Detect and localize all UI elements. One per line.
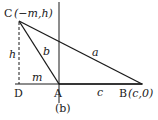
label-a: a (92, 46, 99, 59)
point-c-label: C (4, 7, 12, 20)
label-b: b (43, 45, 50, 58)
figure-caption: (b) (55, 102, 71, 115)
point-d-label: D (14, 87, 23, 100)
triangle-diagram: C (−m,h) h b a m D A c B (c,0) (b) (0, 0, 158, 120)
point-b-label: B (119, 87, 127, 100)
label-m: m (32, 71, 42, 84)
point-c-coords: (−m,h) (14, 7, 53, 20)
point-b-coords: (c,0) (128, 87, 153, 100)
label-c: c (97, 86, 103, 99)
point-a-label: A (53, 87, 63, 100)
label-h: h (9, 48, 16, 61)
